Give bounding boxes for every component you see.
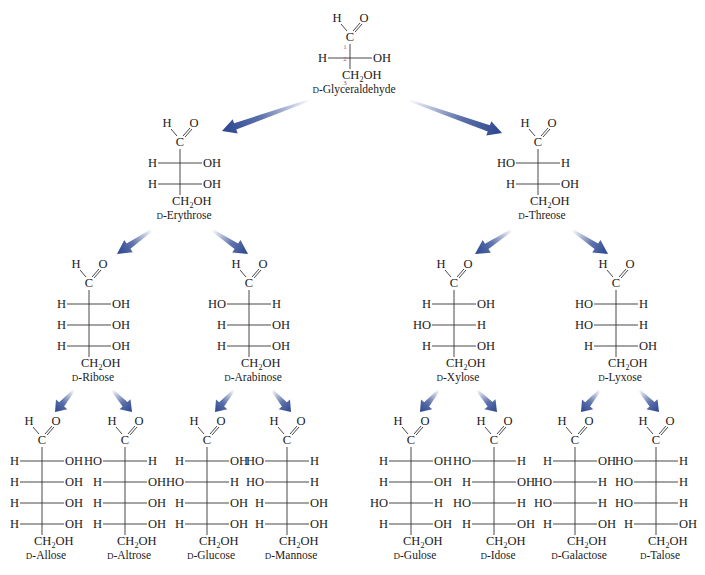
arrow-arabinose-to-glucose-icon	[215, 389, 235, 412]
right-substituent: OH	[373, 51, 391, 65]
aldehyde-h: H	[24, 414, 33, 428]
right-substituent: OH	[65, 454, 83, 468]
bond	[80, 270, 86, 277]
bond	[116, 427, 122, 434]
aldehyde-h: H	[476, 414, 485, 428]
carbon-number: 2	[343, 55, 347, 63]
right-substituent: OH	[65, 517, 83, 531]
left-substituent: H	[379, 475, 388, 489]
right-substituent: OH	[148, 517, 166, 531]
terminal-ch2oh: CH2OH	[34, 534, 73, 550]
carbonyl-carbon: C	[38, 433, 46, 447]
aldehyde-h: H	[189, 414, 198, 428]
right-substituent: OH	[679, 517, 697, 531]
sugar-name-glucose: D-Glucose	[187, 549, 235, 561]
sugar-name-galactose: D-Galactose	[551, 549, 607, 561]
bond	[240, 270, 246, 277]
aldehyde-o: O	[547, 116, 556, 130]
sugar-name-arabinose: D-Arabinose	[224, 371, 282, 383]
aldehyde-o: O	[296, 414, 305, 428]
carbonyl-carbon: C	[346, 30, 354, 44]
left-substituent: HO	[615, 475, 633, 489]
aldehyde-o: O	[503, 414, 512, 428]
left-substituent: H	[462, 517, 471, 531]
sugar-glyceraldehyde: HOCHOHCH2OH123D-Glyceraldehyde	[312, 11, 395, 96]
right-substituent: OH	[598, 517, 616, 531]
carbonyl-carbon: C	[571, 433, 579, 447]
right-substituent: H	[434, 496, 443, 510]
left-substituent: HO	[534, 475, 552, 489]
left-substituent: H	[57, 297, 66, 311]
left-substituent: H	[175, 454, 184, 468]
right-substituent: OH	[203, 156, 221, 170]
aldehyde-o: O	[359, 11, 368, 25]
arrow-erythrose-to-arabinose-icon	[211, 229, 248, 254]
right-substituent: H	[310, 475, 319, 489]
left-substituent: H	[148, 156, 157, 170]
right-substituent: OH	[203, 177, 221, 191]
left-substituent: H	[255, 517, 264, 531]
terminal-ch2oh: CH2OH	[608, 356, 647, 372]
right-substituent: H	[561, 156, 570, 170]
sugar-name-lyxose: D-Lyxose	[598, 371, 642, 384]
left-substituent: H	[543, 454, 552, 468]
sugar-name-erythrose: D-Erythrose	[156, 209, 211, 222]
aldehyde-h: H	[393, 414, 402, 428]
terminal-ch2oh: CH2OH	[81, 356, 120, 372]
aldehyde-h: H	[269, 414, 278, 428]
aldehyde-h: H	[332, 11, 341, 25]
left-substituent: H	[379, 517, 388, 531]
right-substituent: OH	[148, 496, 166, 510]
aldehyde-h: H	[162, 116, 171, 130]
arrow-xylose-to-idose-icon	[476, 389, 497, 412]
sugar-gulose: HOCHOHHOHHOHHOHCH2OHD-Gulose	[370, 414, 452, 561]
sugar-arabinose: HOCHOHHOHHOHCH2OHD-Arabinose	[208, 257, 290, 383]
aldehyde-o: O	[216, 414, 225, 428]
sugar-name-idose: D-Idose	[480, 549, 515, 561]
arrow-erythrose-to-ribose-icon	[117, 229, 153, 254]
left-substituent: H	[422, 297, 431, 311]
left-substituent: H	[506, 177, 515, 191]
arrow-ribose-to-allose-icon	[55, 389, 75, 412]
sugar-xylose: HOCHOHHOHHOHCH2OHD-Xylose	[413, 257, 495, 384]
sugar-ribose: HOCHOHHOHHOHCH2OHD-Ribose	[57, 257, 130, 383]
sugar-name-talose: D-Talose	[640, 549, 680, 561]
left-substituent: H	[10, 517, 19, 531]
bond	[445, 270, 451, 277]
left-substituent: H	[624, 517, 633, 531]
right-substituent: H	[598, 496, 607, 510]
left-substituent: H	[93, 496, 102, 510]
sugar-galactose: HOCHOHHOHHOHHOHCH2OHD-Galactose	[534, 414, 616, 561]
carbonyl-carbon: C	[245, 276, 253, 290]
aldehyde-o: O	[98, 257, 107, 271]
aldehyde-h: H	[107, 414, 116, 428]
aldehyde-o: O	[134, 414, 143, 428]
right-substituent: H	[230, 475, 239, 489]
bond	[278, 427, 284, 434]
terminal-ch2oh: CH2OH	[648, 534, 687, 550]
left-substituent: HO	[208, 297, 226, 311]
sugar-name-xylose: D-Xylose	[437, 371, 480, 384]
right-substituent: OH	[310, 496, 328, 510]
aldehyde-o: O	[51, 414, 60, 428]
carbonyl-carbon: C	[534, 135, 542, 149]
aldehyde-h: H	[598, 257, 607, 271]
sugars-layer: HOCHOHCH2OH123D-GlyceraldehydeHOCHOHHOHC…	[10, 11, 697, 561]
bond	[33, 427, 39, 434]
arrow-lyxose-to-talose-icon	[638, 389, 659, 412]
left-substituent: H	[57, 339, 66, 353]
left-substituent: HO	[615, 496, 633, 510]
aldehyde-o: O	[258, 257, 267, 271]
terminal-ch2oh: CH2OH	[342, 68, 381, 84]
left-substituent: HO	[453, 496, 471, 510]
terminal-ch2oh: CH2OH	[172, 194, 211, 210]
right-substituent: OH	[65, 496, 83, 510]
right-substituent: H	[148, 454, 157, 468]
left-substituent: H	[318, 51, 327, 65]
carbonyl-carbon: C	[176, 135, 184, 149]
bond	[341, 24, 347, 31]
sugar-allose: HOCHOHHOHHOHHOHCH2OHD-Allose	[10, 414, 83, 561]
left-substituent: H	[584, 339, 593, 353]
right-substituent: OH	[148, 475, 166, 489]
left-substituent: H	[379, 454, 388, 468]
